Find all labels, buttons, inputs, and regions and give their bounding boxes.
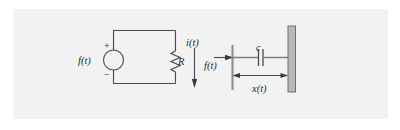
current-label: i(t) bbox=[186, 38, 199, 49]
fixed-wall-icon bbox=[288, 26, 296, 92]
damper-label: c bbox=[256, 43, 260, 53]
displacement-label: x(t) bbox=[252, 84, 267, 95]
polarity-minus-label: − bbox=[104, 70, 110, 80]
resistor-label: R bbox=[178, 57, 184, 68]
diagram-canvas bbox=[0, 0, 400, 130]
voltage-source-icon bbox=[104, 50, 124, 70]
polarity-plus-label: + bbox=[104, 41, 110, 51]
source-label: f(t) bbox=[78, 56, 91, 67]
current-arrow-icon bbox=[192, 79, 197, 88]
figure-container: f(t) + − R i(t) f(t) c x(t) bbox=[0, 0, 400, 130]
dimension-arrow-left-icon bbox=[233, 73, 241, 78]
force-label: f(t) bbox=[204, 61, 217, 72]
dimension-arrow-right-icon bbox=[281, 73, 289, 78]
